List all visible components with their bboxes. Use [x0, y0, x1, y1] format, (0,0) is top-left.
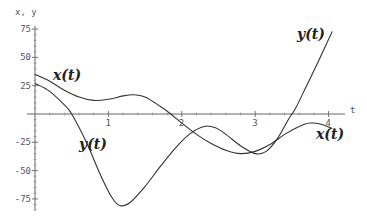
y-tick-label: -50 — [15, 166, 31, 176]
x-tick-label: 3 — [252, 118, 257, 128]
x-tick-label: 1 — [105, 118, 110, 128]
parametric-line-chart: 1234 755025-25-50-75 x, y t x(t) y(t) y(… — [0, 0, 367, 222]
y-tick-label: 75 — [20, 24, 31, 34]
y-tick-label: -25 — [15, 137, 31, 147]
y-curve-label-bottom: y(t) — [78, 136, 107, 152]
y-tick-label: 25 — [20, 81, 31, 91]
x-curve-label-top: x(t) — [52, 67, 81, 83]
y-axis-label: x, y — [15, 7, 37, 17]
curve-labels: x(t) y(t) y(t) x(t) — [52, 26, 344, 152]
y-tick-label: 50 — [20, 52, 31, 62]
x-axis-label: t — [350, 105, 355, 115]
y-curve-label-right: y(t) — [296, 26, 325, 42]
x-curve-label-right: x(t) — [315, 126, 344, 142]
y-tick-label: -75 — [15, 194, 31, 204]
